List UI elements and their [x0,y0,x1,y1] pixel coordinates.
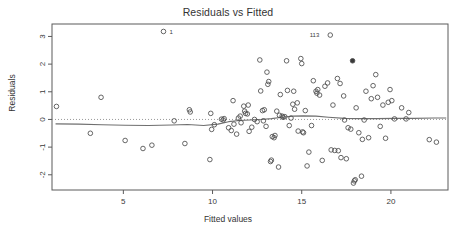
data-point [371,83,376,88]
data-point [234,132,239,137]
data-point [328,33,333,38]
data-point [399,106,404,111]
data-point [226,125,231,130]
data-point [239,120,244,125]
data-point [88,131,93,136]
data-point [183,141,188,146]
data-point [264,124,269,129]
plot-figure: Residuals vs Fitted 3210-1-251015201113 … [0,0,456,240]
y-axis-tick-label: -1 [39,143,48,151]
data-point [369,96,374,101]
data-point [305,164,310,169]
data-point [246,103,251,108]
data-point [232,122,237,127]
y-axis-label: Residuals [7,53,17,133]
data-point [388,87,393,92]
data-point [296,129,301,134]
data-point [249,125,254,130]
y-axis-tick-label: 3 [39,34,48,39]
chart-canvas: 3210-1-251015201113 [0,0,456,240]
y-axis-tick-label: 1 [39,89,48,94]
data-point [274,109,279,114]
data-point [299,56,304,61]
data-point [341,94,346,99]
y-axis-tick-label: 0 [39,117,48,122]
x-axis-tick-label: 10 [208,197,217,206]
data-point [285,88,290,93]
data-point [335,76,340,81]
data-point [258,89,263,94]
data-point [172,119,177,124]
data-point [434,140,439,145]
data-point [291,89,296,94]
data-point [406,110,411,115]
y-axis-tick-label: 2 [39,61,48,66]
data-point [278,92,283,97]
data-point [360,137,365,142]
data-point [299,61,304,66]
data-point [269,158,274,163]
x-axis-tick-label: 5 [121,197,126,206]
data-point-label: 1 [169,29,173,35]
data-point [344,156,349,161]
data-point [266,79,271,84]
lowess-smoother-line [56,116,447,126]
data-point [338,81,343,86]
data-point [292,107,297,112]
data-point [320,158,325,163]
data-point [209,127,214,132]
x-axis-tick-label: 20 [386,197,395,206]
data-point [141,146,146,151]
data-point [354,106,359,111]
data-point [161,29,166,34]
data-point [309,123,314,128]
data-point [241,104,246,109]
data-point [231,98,236,103]
data-point [364,89,369,94]
data-point [373,72,378,77]
data-point [229,128,234,133]
y-axis-tick-label: -2 [39,171,48,179]
data-point [208,157,213,162]
data-point [222,116,227,121]
data-point [383,136,388,141]
data-point [357,130,362,135]
x-axis-label: Fitted values [0,214,456,224]
data-point [265,70,270,75]
data-point [295,101,300,106]
data-point [291,102,296,107]
data-point [350,58,355,63]
data-point [123,138,128,143]
data-point [54,104,59,109]
data-point [378,124,383,129]
data-point [381,103,386,108]
data-point [366,135,371,140]
data-point-label: 113 [310,32,320,38]
data-point [359,174,364,179]
data-point [150,143,155,148]
data-point [284,58,289,63]
data-point [99,95,104,100]
data-point [276,165,281,170]
data-point [325,81,330,86]
data-point [311,78,316,83]
data-point [266,82,271,87]
data-point [404,117,409,122]
data-point [427,137,432,142]
data-point [258,58,263,63]
data-point [307,150,312,155]
data-point [208,111,213,116]
data-point [247,129,252,134]
data-point [331,103,336,108]
data-point [339,155,344,160]
data-point [375,95,380,100]
x-axis-tick-label: 15 [297,197,306,206]
data-point [287,123,292,128]
data-point [303,108,308,113]
